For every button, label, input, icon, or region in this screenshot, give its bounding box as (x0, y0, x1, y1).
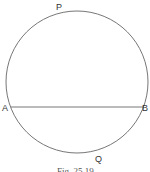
label-b: B (142, 103, 148, 113)
geometry-figure: P A B Q Fig. 25.19 (0, 0, 150, 172)
figure-caption: Fig. 25.19 (57, 166, 94, 172)
label-q: Q (95, 154, 102, 164)
label-a: A (2, 103, 8, 113)
label-p: P (56, 2, 62, 12)
circle (6, 11, 148, 153)
